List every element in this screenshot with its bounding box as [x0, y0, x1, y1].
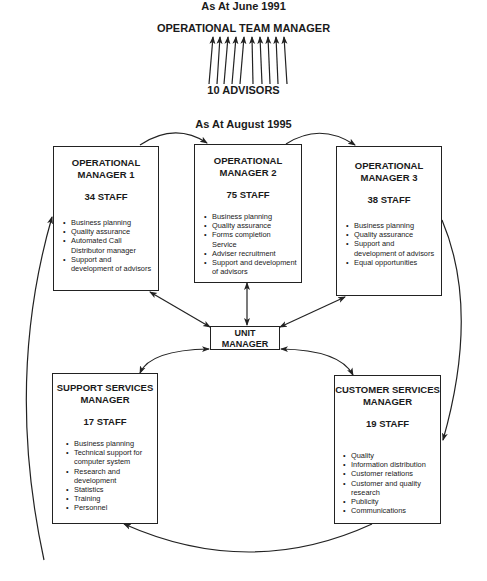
staff-count: 34 STAFF: [54, 191, 158, 202]
operational-manager-1-box: OPERATIONAL MANAGER 1 34 STAFF Business …: [53, 146, 159, 291]
list-item: Information distribution: [351, 460, 436, 469]
list-item: Adviser recruitment: [212, 249, 297, 258]
staff-count: 17 STAFF: [53, 416, 157, 427]
box-title: SUPPORT SERVICES MANAGER: [53, 382, 157, 406]
staff-count: 38 STAFF: [337, 194, 441, 205]
list-item: Support and development of advisors: [212, 258, 297, 276]
list-item: Technical support for computer system: [74, 448, 153, 466]
responsibility-list: Business planning Technical support for …: [53, 439, 157, 513]
list-item: Business planning: [74, 439, 153, 448]
support-services-manager-box: SUPPORT SERVICES MANAGER 17 STAFF Busine…: [52, 373, 158, 524]
list-item: Customer and quality research: [351, 479, 436, 497]
list-item: Customer relations: [351, 469, 436, 478]
list-item: Business planning: [354, 221, 437, 230]
list-item: Business planning: [71, 218, 154, 227]
list-item: Quality assurance: [212, 221, 297, 230]
list-item: Support and development of advisors: [71, 255, 154, 273]
list-item: Training: [74, 494, 153, 503]
operational-team-manager-label: OPERATIONAL TEAM MANAGER: [0, 22, 487, 34]
date-1991: As At June 1991: [0, 0, 487, 12]
responsibility-list: Business planning Quality assurance Form…: [195, 212, 301, 276]
operational-manager-2-box: OPERATIONAL MANAGER 2 75 STAFF Business …: [194, 144, 302, 283]
responsibility-list: Quality Information distribution Custome…: [335, 451, 440, 515]
list-item: Communications: [351, 506, 436, 515]
box-title: OPERATIONAL MANAGER 3: [337, 160, 441, 184]
advisors-label: 10 ADVISORS: [0, 84, 487, 96]
list-item: Research and development: [74, 467, 153, 485]
unit-manager-box: UNIT MANAGER: [210, 326, 280, 350]
responsibility-list: Business planning Quality assurance Auto…: [54, 218, 158, 273]
staff-count: 19 STAFF: [335, 418, 440, 429]
box-title: OPERATIONAL MANAGER 2: [195, 155, 301, 179]
list-item: Publicity: [351, 497, 436, 506]
list-item: Statistics: [74, 485, 153, 494]
list-item: Quality assurance: [71, 227, 154, 236]
customer-services-manager-box: CUSTOMER SERVICES MANAGER 19 STAFF Quali…: [334, 375, 441, 524]
list-item: Automated Call Distributor manager: [71, 236, 154, 254]
list-item: Forms completion Service: [212, 230, 297, 248]
list-item: Quality: [351, 451, 436, 460]
responsibility-list: Business planning Quality assurance Supp…: [337, 221, 441, 267]
list-item: Personnel: [74, 503, 153, 512]
box-title: OPERATIONAL MANAGER 1: [54, 157, 158, 181]
date-1995: As At August 1995: [0, 118, 487, 130]
list-item: Quality assurance: [354, 230, 437, 239]
list-item: Equal opportunities: [354, 258, 437, 267]
operational-manager-3-box: OPERATIONAL MANAGER 3 38 STAFF Business …: [336, 146, 442, 296]
advisor-arrows: [209, 37, 287, 84]
box-title: CUSTOMER SERVICES MANAGER: [335, 384, 440, 408]
staff-count: 75 STAFF: [195, 189, 301, 200]
list-item: Business planning: [212, 212, 297, 221]
list-item: Support and development of advisors: [354, 239, 437, 257]
